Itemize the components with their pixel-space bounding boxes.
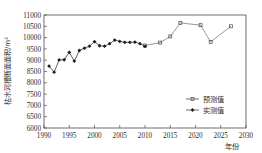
y-tick-label: 8500 — [27, 68, 42, 76]
y-tick-label: 10500 — [23, 23, 41, 31]
y-tick-label: 8000 — [27, 79, 42, 87]
y-tick-label: 10000 — [23, 34, 41, 42]
x-tick-label: 1995 — [62, 132, 77, 140]
y-tick-label: 7500 — [27, 91, 42, 99]
y-tick-label: 11000 — [23, 12, 41, 20]
x-tick-label: 2015 — [163, 132, 178, 140]
legend-label-1: 实测值 — [203, 106, 224, 115]
y-tick-label: 9500 — [27, 46, 42, 54]
x-tick-label: 1990 — [37, 132, 52, 140]
x-tick-label: 2020 — [188, 132, 203, 140]
line-chart: 6000650070007500800085009000950010000105… — [0, 0, 262, 153]
y-tick-label: 6500 — [27, 113, 42, 121]
y-axis-title-text: 枯水河槽断面面积/m² — [3, 37, 12, 105]
x-tick-label: 2025 — [214, 132, 229, 140]
x-tick-label: 2010 — [138, 132, 153, 140]
y-tick-label: 9000 — [27, 57, 42, 65]
x-axis-title-text: 年份 — [225, 142, 240, 151]
y-axis-title: 枯水河槽断面面积/m² — [3, 37, 12, 105]
y-tick-label: 7000 — [27, 102, 42, 110]
x-tick-label: 2000 — [87, 132, 102, 140]
y-axis-ticks: 6000650070007500800085009000950010000105… — [23, 12, 47, 133]
legend-label-0: 预测值 — [203, 95, 224, 104]
x-axis-ticks: 199019952000200520102015202020252030 — [37, 125, 254, 140]
x-tick-label: 2030 — [239, 132, 254, 140]
x-tick-label: 2005 — [113, 132, 128, 140]
chart-figure: 6000650070007500800085009000950010000105… — [0, 0, 262, 153]
